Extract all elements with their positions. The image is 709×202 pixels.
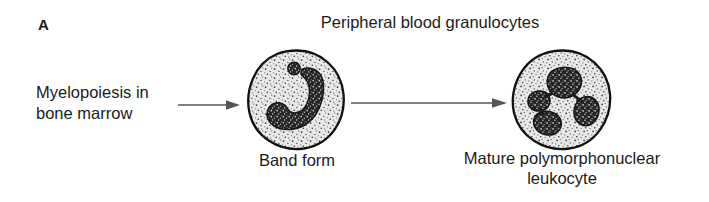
caption-band-form: Band form: [222, 150, 372, 170]
source-label-line-2: bone marrow: [36, 103, 186, 124]
nucleus-filament-2: [541, 110, 543, 113]
cell-band-form: [246, 49, 348, 151]
caption-band-form-text: Band form: [222, 150, 372, 170]
caption-mature-pmn: Mature polymorphonuclear leukocyte: [437, 148, 687, 188]
source-label-line-1: Myelopoiesis in: [36, 82, 186, 103]
cell-mature-pmn: [510, 49, 614, 151]
arrow-band-to-mature: [351, 96, 509, 110]
arrow-marrow-to-band: [178, 98, 242, 112]
figure-headline: Peripheral blood granulocytes: [250, 12, 610, 32]
source-label: Myelopoiesis in bone marrow: [36, 82, 186, 124]
nucleus-knob: [288, 62, 300, 74]
nucleus-lobe-3: [534, 111, 562, 135]
caption-mature-pmn-line-1: Mature polymorphonuclear: [437, 148, 687, 168]
figure-panel-a: A Peripheral blood granulocytes Myelopoi…: [0, 0, 709, 202]
panel-letter: A: [38, 17, 49, 32]
caption-mature-pmn-line-2: leukocyte: [437, 168, 687, 188]
